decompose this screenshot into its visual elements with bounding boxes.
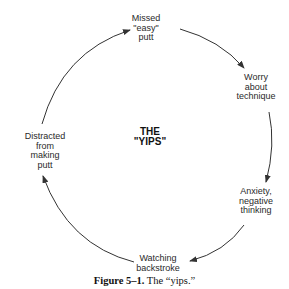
node-line: putt [132,33,161,43]
node-worry-technique: Worry about technique [236,73,275,102]
node-line: technique [236,92,275,102]
node-line: putt [25,161,66,171]
node-distracted: Distracted from making putt [25,132,66,170]
arrow-anxiety-to-watching [190,225,244,261]
figure-caption-text: The “yips.” [144,275,195,286]
arrow-missed-to-worry [180,29,244,68]
arrow-watching-to-distracted [43,176,134,262]
arrow-distracted-to-missed [42,30,130,124]
yips-cycle-diagram: Missed "easy" putt Worry about technique… [0,0,289,289]
figure-caption: Figure 5–1. The “yips.” [0,275,289,286]
arrow-worry-to-anxiety [266,112,272,182]
center-label: THE "YIPS" [134,127,166,147]
node-line: thinking [239,206,273,216]
figure-number: Figure 5–1. [94,275,145,286]
center-label-line: "YIPS" [134,137,166,147]
node-missed-putt: Missed "easy" putt [132,14,161,43]
node-line: backstroke [136,264,180,274]
node-anxiety: Anxiety, negative thinking [239,187,273,216]
node-watching-backstroke: Watching backstroke [136,254,180,273]
